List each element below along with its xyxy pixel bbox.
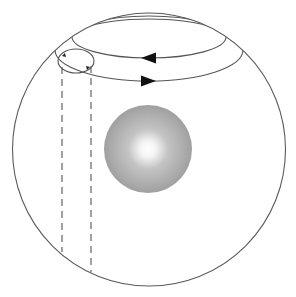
upper-orbit (72, 16, 226, 58)
right-arrow-icon (141, 76, 156, 87)
left-arrow-icon (141, 53, 156, 64)
diagram-canvas (0, 0, 296, 297)
central-core (104, 105, 192, 193)
sphere-orbit-diagram (0, 0, 296, 297)
